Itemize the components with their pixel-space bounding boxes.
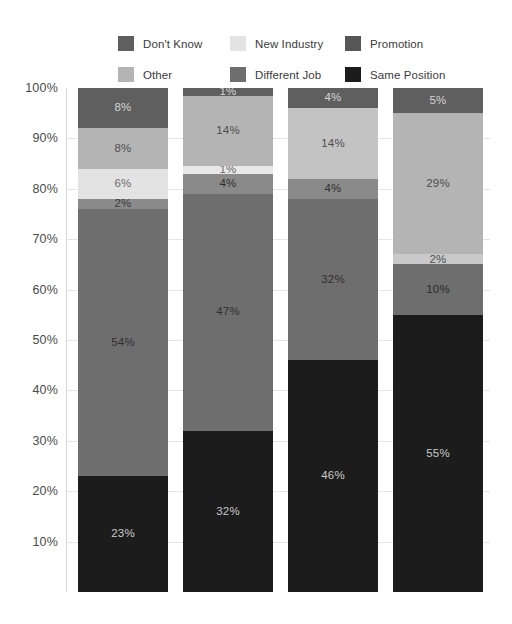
legend-item-new-industry[interactable]: New Industry [230,36,345,51]
bar-segment[interactable]: 46% [288,360,378,592]
plot-area: 8%8%6%2%54%23%1%14%1%4%47%32%4%14%4%32%4… [66,88,490,592]
legend-swatch-icon [345,36,361,51]
legend-item-label: New Industry [255,38,323,50]
bar-segment[interactable]: 54% [78,209,168,476]
bar-segment-label: 1% [219,88,236,96]
bar-segment-label: 5% [429,95,446,107]
bar-segment-label: 1% [219,166,236,174]
y-axis-tick-label: 60% [10,283,58,297]
bar-segment[interactable]: 4% [183,174,273,194]
bar-segment-label: 29% [426,178,450,190]
bar-segment[interactable]: 55% [393,315,483,592]
y-axis-tick-label: 10% [10,535,58,549]
bar-segment[interactable]: 47% [183,194,273,431]
legend-swatch-icon [345,67,361,82]
bar-segment-label: 46% [321,470,345,482]
bar-group: 8%8%6%2%54%23%1%14%1%4%47%32%4%14%4%32%4… [66,88,490,592]
legend-item-label: Same Position [370,69,445,81]
bar-segment[interactable]: 8% [78,128,168,168]
bar-segment-label: 8% [114,102,131,114]
bar-segment-label: 4% [324,92,341,104]
stacked-bar-chart: Don't KnowNew IndustryPromotionOtherDiff… [0,0,512,624]
bar-segment-label: 2% [114,199,131,209]
bar-segment[interactable]: 10% [393,264,483,314]
bar-segment[interactable]: 5% [393,88,483,113]
bar-segment-label: 23% [111,528,135,540]
bar-segment-label: 32% [216,506,240,518]
bar-segment[interactable]: 8% [78,88,168,128]
bar-segment-label: 55% [426,448,450,460]
bar-segment-label: 6% [114,178,131,190]
bar-segment-label: 4% [324,183,341,195]
bar-4[interactable]: 5%29%2%10%55% [393,88,483,592]
y-axis-tick-labels: 100%90%80%70%60%50%40%30%20%10% [8,88,58,592]
legend-item-label: Other [143,69,172,81]
bar-segment[interactable]: 32% [183,431,273,592]
bar-segment[interactable]: 2% [78,199,168,209]
bar-segment[interactable]: 23% [78,476,168,592]
y-axis-tick-label: 50% [10,333,58,347]
bar-segment[interactable]: 1% [183,166,273,174]
bar-segment-label: 47% [216,306,240,318]
legend-item-don-t-know[interactable]: Don't Know [118,36,230,51]
legend-swatch-icon [118,67,134,82]
bar-segment-label: 32% [321,274,345,286]
legend-item-other[interactable]: Other [118,67,230,82]
y-axis-tick-label: 80% [10,182,58,196]
y-axis-tick-label: 30% [10,434,58,448]
bar-segment-label: 14% [216,125,240,137]
legend-item-label: Promotion [370,38,423,50]
y-axis-tick-label: 90% [10,131,58,145]
bar-segment-label: 8% [114,143,131,155]
y-axis-tick-label: 20% [10,484,58,498]
bar-segment[interactable]: 4% [288,179,378,199]
bar-segment[interactable]: 4% [288,88,378,108]
bar-segment[interactable]: 2% [393,254,483,264]
legend-swatch-icon [230,36,246,51]
bar-segment-label: 4% [219,178,236,190]
bar-segment-label: 54% [111,337,135,349]
chart-legend: Don't KnowNew IndustryPromotionOtherDiff… [118,28,458,90]
bar-segment[interactable]: 29% [393,113,483,254]
bar-segment-label: 2% [429,254,446,264]
bar-segment[interactable]: 6% [78,169,168,199]
legend-item-different-job[interactable]: Different Job [230,67,345,82]
bar-segment[interactable]: 14% [183,96,273,167]
legend-swatch-icon [118,36,134,51]
bar-3[interactable]: 4%14%4%32%46% [288,88,378,592]
legend-item-promotion[interactable]: Promotion [345,36,458,51]
legend-item-label: Different Job [255,69,321,81]
y-axis-tick-label: 70% [10,232,58,246]
legend-item-same-position[interactable]: Same Position [345,67,458,82]
legend-item-label: Don't Know [143,38,202,50]
bar-segment[interactable]: 14% [288,108,378,179]
bar-segment[interactable]: 32% [288,199,378,360]
y-axis-tick-label: 100% [10,81,58,95]
bar-2[interactable]: 1%14%1%4%47%32% [183,88,273,592]
bar-segment-label: 14% [321,138,345,150]
bar-segment[interactable]: 1% [183,88,273,96]
bar-1[interactable]: 8%8%6%2%54%23% [78,88,168,592]
y-axis-tick-label: 40% [10,383,58,397]
legend-swatch-icon [230,67,246,82]
bar-segment-label: 10% [426,284,450,296]
